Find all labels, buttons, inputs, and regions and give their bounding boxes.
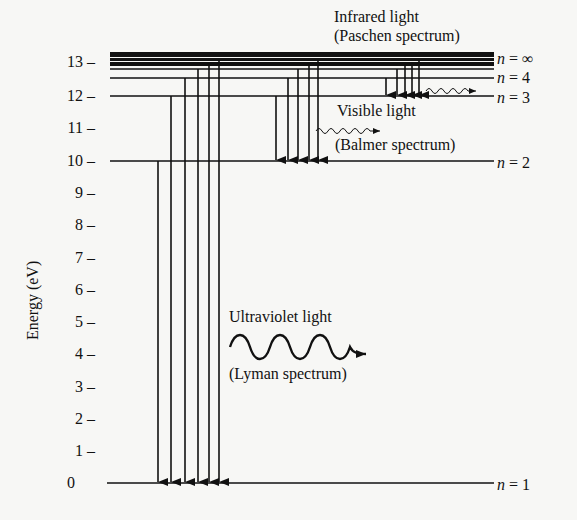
ultraviolet-subtitle: (Lyman spectrum) — [229, 365, 347, 383]
y-tick-6: 6 – — [40, 282, 95, 298]
y-tick-3: 3 – — [40, 379, 95, 395]
infrared-subtitle: (Paschen spectrum) — [334, 27, 460, 45]
lyman-series-arrows — [158, 59, 219, 482]
y-tick-9: 9 – — [40, 185, 95, 201]
visible-wave-icon — [316, 129, 380, 134]
level-label-n-2: n = 2 — [497, 155, 530, 171]
visible-title: Visible light — [337, 102, 416, 120]
y-tick-12: 12 – — [40, 88, 95, 104]
ultraviolet-title: Ultraviolet light — [229, 308, 332, 326]
y-tick-7: 7 – — [40, 250, 95, 266]
ultraviolet-wave-icon — [230, 335, 366, 359]
y-tick-0: 0 — [40, 475, 75, 491]
level-label-n-1: n = 1 — [497, 477, 530, 493]
y-tick-1: 1 – — [40, 443, 95, 459]
y-tick-10: 10 – — [40, 153, 95, 169]
y-tick-11: 11 – — [40, 120, 95, 136]
y-tick-4: 4 – — [40, 346, 95, 362]
level-n-infinity — [110, 52, 494, 69]
visible-subtitle: (Balmer spectrum) — [335, 136, 455, 154]
y-tick-8: 8 – — [40, 217, 95, 233]
level-label-n-4: n = 4 — [497, 70, 530, 86]
infrared-title: Infrared light — [334, 8, 419, 26]
level-label-n-infinity: n = ∞ — [497, 51, 533, 67]
infrared-wave-icon — [426, 89, 476, 94]
y-tick-5: 5 – — [40, 314, 95, 330]
level-label-n-3: n = 3 — [497, 90, 530, 106]
y-tick-2: 2 – — [40, 411, 95, 427]
y-tick-13: 13 – — [40, 54, 95, 70]
balmer-series-arrows — [276, 59, 318, 160]
